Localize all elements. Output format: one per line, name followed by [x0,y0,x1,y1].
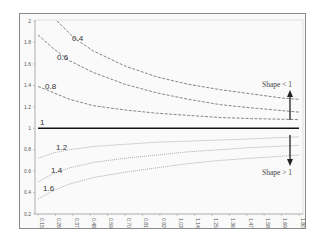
y-tick-label: 2 [28,18,31,24]
series-line-0.6 [38,35,299,112]
series-line-1.2 [38,137,299,158]
x-tick-label: 0.48 [91,218,97,228]
x-tick-label: 0.81 [143,218,149,228]
curve-label-1.6: 1.6 [43,184,55,193]
curve-label-0.8: 0.8 [45,82,57,91]
series-line-0.8 [38,86,299,119]
x-tick-label: 1.25 [213,218,219,228]
curve-label-1: 1 [40,118,45,127]
y-tick-labels: 21.81.61.41.210.80.60.40.2 [24,18,35,217]
annotation-shape-less-than-1: Shape < 1 [262,80,292,89]
line-chart: 21.81.61.41.210.80.60.40.2 0.150.260.370… [0,0,322,241]
annotation-shape-greater-than-1: Shape > 1 [262,168,292,177]
curve-label-0.6: 0.6 [57,53,69,62]
y-tick-label: 0.2 [24,211,31,217]
y-tick-label: 1.2 [24,104,31,110]
x-tick-labels: 0.150.260.370.480.590.700.810.921.031.14… [38,214,306,228]
curve-label-0.4: 0.4 [72,34,84,43]
x-tick-label: 0.15 [39,218,45,228]
x-tick-label: 0.59 [108,218,114,228]
x-tick-label: 0.37 [74,218,80,228]
arrow-down-icon [287,135,293,166]
series-line-1.4 [38,145,299,181]
y-tick-label: 0.4 [24,189,31,195]
series-line-1.6 [38,155,299,199]
x-tick-label: 0.92 [161,218,167,228]
x-tick-label: 1.80 [300,218,306,228]
x-tick-label: 1.47 [248,218,254,228]
curve-label-1.2: 1.2 [56,143,68,152]
x-tick-label: 1.03 [178,218,184,228]
x-tick-label: 1.36 [230,218,236,228]
plot-area [35,20,303,214]
y-tick-label: 1.6 [24,61,31,67]
arrow-up-icon [287,90,293,120]
x-tick-label: 1.58 [265,218,271,228]
x-tick-label: 0.26 [56,218,62,228]
curves [38,21,299,199]
y-tick-label: 1 [28,125,31,131]
y-tick-label: 1.8 [24,39,31,45]
x-tick-label: 1.14 [195,218,201,228]
y-tick-label: 0.8 [24,146,31,152]
x-tick-label: 1.69 [282,218,288,228]
x-tick-label: 0.70 [126,218,132,228]
curve-label-1.4: 1.4 [51,166,63,175]
y-tick-label: 0.6 [24,168,31,174]
y-tick-label: 1.4 [24,82,31,88]
